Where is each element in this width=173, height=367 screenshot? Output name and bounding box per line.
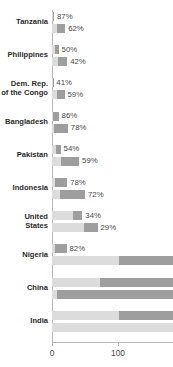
category-label: Tanzania [0,18,48,27]
bar [52,211,82,220]
chart-container: Tanzania87%62%Philippines50%42%Dem. Rep.… [0,0,173,367]
bar [52,45,59,54]
category-label: Bangladesh [0,118,48,127]
bar-value-label: 41% [56,78,72,87]
axis-tick [52,342,53,346]
bar-segment-dark [58,57,67,66]
bar-segment-dark [57,24,66,33]
value-axis-line [52,342,173,343]
bar-value-label: 42% [70,57,86,66]
bar-segment-dark [55,45,59,54]
bar-value-label: 87% [57,12,73,21]
bar [52,290,173,299]
bar-segment-light [52,311,119,320]
category-label: United States [0,213,48,230]
bar-value-label: 54% [64,144,80,153]
bar-value-label: 50% [62,45,78,54]
bar [52,124,68,133]
bar-segment-light [52,190,60,199]
bar-segment-dark [56,145,61,154]
bar-value-label: 72% [88,190,104,199]
bar-segment-dark [53,78,54,87]
axis-tick [118,342,119,346]
bar [52,90,65,99]
bar [52,323,173,332]
bar [52,256,173,265]
bar-value-label: 29% [101,223,117,232]
axis-tick-label: 100 [103,348,133,358]
category-label: Nigeria [0,251,48,260]
bar [52,12,54,21]
bar-value-label: 86% [62,111,78,120]
category-label: Philippines [0,51,48,60]
bar [52,278,173,287]
bar-segment-light [52,211,73,220]
bar [52,24,65,33]
bar-segment-dark [100,278,173,287]
bar-value-label: 34% [85,211,101,220]
bar-segment-light [52,223,84,232]
bar-segment-dark [119,256,173,265]
category-label: India [0,317,48,326]
bar-segment-dark [55,178,67,187]
bar-segment-dark [119,311,173,320]
bar [52,78,53,87]
bar-segment-light [52,278,100,287]
bar [52,145,61,154]
bar-segment-light [52,157,61,166]
plot-area: Tanzania87%62%Philippines50%42%Dem. Rep.… [0,0,173,367]
bar [52,57,67,66]
bar-value-label: 62% [68,24,84,33]
bar-segment-dark [57,290,173,299]
bar-segment-dark [53,112,58,121]
category-label: Dem. Rep. of the Congo [0,80,48,97]
bar-segment-dark [61,157,79,166]
bar-segment-dark [55,244,67,253]
bar-segment-dark [53,12,54,21]
bar [52,190,85,199]
bar-segment-dark [57,90,65,99]
bar-segment-dark [73,211,82,220]
bar [52,157,79,166]
category-label: Indonesia [0,184,48,193]
bar-value-label: 78% [70,178,86,187]
bar-value-label: 59% [68,90,84,99]
bar-value-label: 78% [71,123,87,132]
bar-segment-light [52,256,119,265]
bar [52,311,173,320]
bar-value-label: 59% [82,156,98,165]
bar [52,244,67,253]
axis-tick-label: 0 [37,348,67,358]
category-label: China [0,284,48,293]
bar-segment-light [52,323,173,332]
bar [52,178,67,187]
bar-value-label: 82% [70,244,86,253]
bar [52,223,98,232]
bar-segment-dark [54,124,68,133]
bar-segment-dark [84,223,98,232]
bar [52,112,59,121]
bar-segment-dark [60,190,85,199]
category-label: Pakistan [0,151,48,160]
